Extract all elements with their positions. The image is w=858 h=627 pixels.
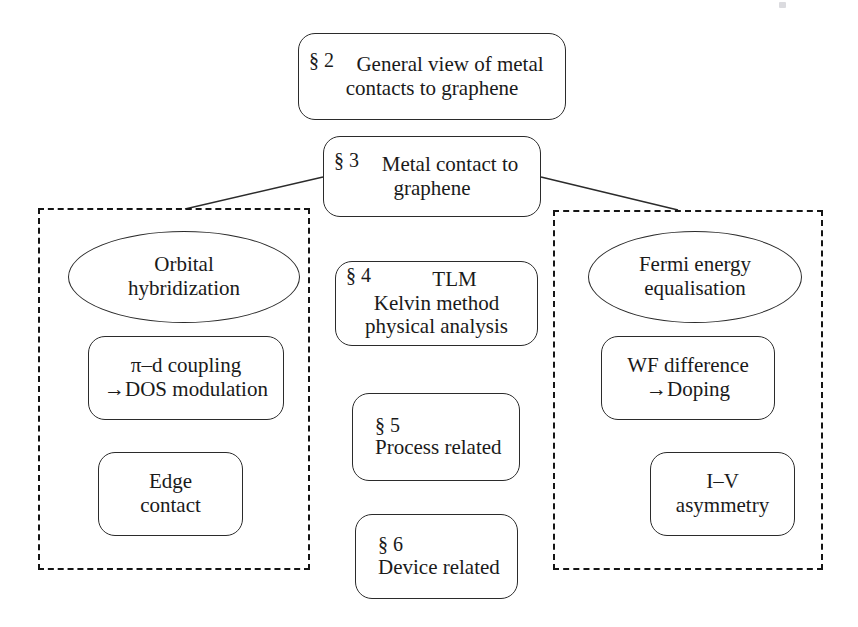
node-wf-difference[interactable]: WF difference →Doping: [601, 336, 775, 420]
node-section-2-firstline: § 2 General view of metal: [299, 53, 565, 77]
section-marker-6: § 6: [356, 533, 517, 556]
section-marker-2: § 2: [309, 49, 334, 72]
section-marker-3: § 3: [334, 149, 359, 172]
node-section-2[interactable]: § 2 General view of metal contacts to gr…: [298, 33, 566, 120]
node-section-5[interactable]: § 5 Process related: [352, 393, 520, 481]
node-iv-asymmetry-line2: asymmetry: [676, 494, 769, 518]
node-section-4-firstline: § 4 TLM: [336, 268, 537, 292]
node-section-5-line1: Process related: [353, 436, 519, 460]
scan-artifact: [779, 2, 786, 8]
connector-sect3-to-left-group: [185, 177, 323, 209]
node-pi-d-coupling[interactable]: π–d coupling →DOS modulation: [88, 336, 284, 420]
node-iv-asymmetry[interactable]: I–V asymmetry: [650, 452, 795, 536]
node-section-3-firstline: § 3 Metal contact to: [324, 153, 540, 177]
node-section-4[interactable]: § 4 TLM Kelvin method physical analysis: [335, 261, 538, 346]
connector-sect3-to-right-group: [541, 177, 678, 210]
node-orbital-hybridization[interactable]: Orbital hybridization: [68, 231, 300, 323]
node-section-2-line1: General view of metal: [299, 53, 565, 77]
node-wf-difference-line1: WF difference: [627, 354, 748, 378]
node-section-2-line2: contacts to graphene: [346, 77, 519, 101]
node-edge-contact[interactable]: Edge contact: [98, 452, 243, 536]
node-fermi-energy-equalisation-line2: equalisation: [644, 277, 745, 301]
node-orbital-hybridization-line2: hybridization: [128, 277, 240, 301]
node-pi-d-coupling-line2: →DOS modulation: [104, 378, 268, 402]
section-marker-4: § 4: [346, 264, 371, 287]
node-edge-contact-line2: contact: [140, 494, 201, 518]
node-edge-contact-line1: Edge: [149, 470, 192, 494]
node-section-4-line3: physical analysis: [365, 315, 508, 339]
node-section-6-line1: Device related: [356, 556, 517, 580]
node-iv-asymmetry-line1: I–V: [706, 470, 739, 494]
node-section-3-line2: graphene: [394, 177, 471, 201]
node-section-3[interactable]: § 3 Metal contact to graphene: [323, 136, 541, 217]
node-section-4-line2: Kelvin method: [374, 292, 499, 316]
flowchart-canvas: § 2 General view of metal contacts to gr…: [0, 0, 858, 627]
node-fermi-energy-equalisation-line1: Fermi energy: [639, 253, 751, 277]
node-fermi-energy-equalisation[interactable]: Fermi energy equalisation: [588, 231, 802, 323]
node-pi-d-coupling-line1: π–d coupling: [131, 354, 241, 378]
section-marker-5: § 5: [353, 414, 519, 437]
node-section-6[interactable]: § 6 Device related: [355, 514, 518, 599]
node-wf-difference-line2: →Doping: [646, 378, 730, 402]
node-orbital-hybridization-line1: Orbital: [154, 253, 213, 277]
